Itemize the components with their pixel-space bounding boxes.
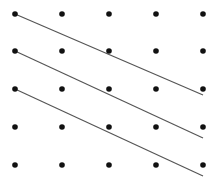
grid-dot-r3-c4 (153, 86, 159, 92)
dot-grid-diagram (0, 0, 220, 183)
grid-dot-r3-c2 (59, 86, 65, 92)
grid-dot-r4-c5 (200, 124, 206, 130)
grid-dot-r3-c3 (106, 86, 112, 92)
grid-dot-r2-c1 (12, 48, 18, 54)
grid-dot-r5-c5 (200, 162, 206, 168)
grid-dot-r1-c2 (59, 11, 65, 17)
grid-dot-r2-c5 (200, 48, 206, 54)
grid-dot-r4-c4 (153, 124, 159, 130)
grid-dot-r1-c1 (12, 11, 18, 17)
grid-dot-r4-c2 (59, 124, 65, 130)
grid-dot-r5-c4 (153, 162, 159, 168)
grid-dot-r5-c3 (106, 162, 112, 168)
grid-dot-r1-c3 (106, 11, 112, 17)
grid-dot-r2-c2 (59, 48, 65, 54)
grid-dot-r3-c5 (200, 86, 206, 92)
grid-dot-r2-c4 (153, 48, 159, 54)
grid-dot-r1-c5 (200, 11, 206, 17)
grid-dot-r5-c1 (12, 162, 18, 168)
grid-dot-r3-c1 (12, 86, 18, 92)
grid-dot-r4-c3 (106, 124, 112, 130)
grid-dot-r2-c3 (106, 48, 112, 54)
grid-dot-r4-c1 (12, 124, 18, 130)
grid-dot-r5-c2 (59, 162, 65, 168)
grid-dot-r1-c4 (153, 11, 159, 17)
